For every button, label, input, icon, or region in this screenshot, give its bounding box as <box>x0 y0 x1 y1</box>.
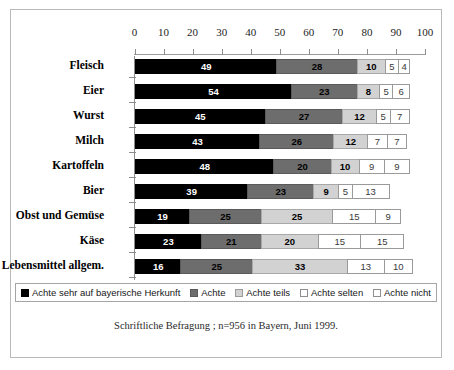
legend-item[interactable]: Achte teils <box>235 287 290 298</box>
legend-item[interactable]: Achte nicht <box>373 287 431 298</box>
x-axis-tick-label: 100 <box>405 27 445 38</box>
bar-row: Obst und Gemüse192525159 <box>11 206 441 231</box>
stacked-bar: 45271257 <box>135 109 410 124</box>
stacked-bar: 1625331310 <box>135 259 413 274</box>
bar-segment: 10 <box>384 259 413 274</box>
bar-segment: 49 <box>135 59 277 74</box>
x-axis-tick <box>251 49 252 55</box>
bar-segment: 26 <box>259 134 335 149</box>
legend-item[interactable]: Achte sehr auf bayerische Herkunft <box>21 287 180 298</box>
x-axis-tick <box>367 49 368 55</box>
legend-label: Achte <box>201 287 225 298</box>
x-axis-tick <box>309 49 310 55</box>
y-axis-tick <box>129 277 136 278</box>
bar-segment: 54 <box>135 84 292 99</box>
bar-segment: 39 <box>135 184 248 199</box>
bar-segment: 15 <box>360 234 404 249</box>
stacked-bar: 39239513 <box>135 184 390 199</box>
x-axis-tick <box>396 49 397 55</box>
bar-segment: 6 <box>392 84 409 99</box>
bar-segment: 10 <box>331 159 360 174</box>
x-axis-tick <box>193 49 194 55</box>
category-label: Lebensmittel allgem. <box>0 259 104 272</box>
bar-row: Käse2321201515 <box>11 231 441 256</box>
bar-segment: 33 <box>252 259 348 274</box>
y-axis-tick <box>129 177 136 178</box>
bar-row: Kartoffeln48201099 <box>11 156 441 181</box>
bar-segment: 8 <box>357 84 380 99</box>
bar-segment: 9 <box>359 159 385 174</box>
legend: Achte sehr auf bayerische HerkunftAchteA… <box>15 283 437 302</box>
y-axis-tick <box>129 202 136 203</box>
bar-segment: 10 <box>357 59 386 74</box>
y-axis-tick <box>129 252 136 253</box>
bar-segment: 20 <box>273 159 331 174</box>
bar-segment: 23 <box>247 184 314 199</box>
bar-segment: 5 <box>379 84 394 99</box>
footnote: Schriftliche Befragung ; n=956 in Bayern… <box>11 320 441 332</box>
category-label: Kartoffeln <box>0 159 104 172</box>
y-axis-tick <box>129 152 136 153</box>
bar-segment: 4 <box>398 59 410 74</box>
x-axis-tick <box>425 49 426 55</box>
bar-segment: 25 <box>189 209 262 224</box>
x-axis: 0102030405060708090100 <box>11 10 441 58</box>
plot-area: Fleisch49281054Eier5423856Wurst45271257M… <box>11 56 441 280</box>
category-label: Obst und Gemüse <box>0 209 104 222</box>
stacked-bar: 43261277 <box>135 134 407 149</box>
legend-label: Achte nicht <box>384 287 431 298</box>
bar-segment: 9 <box>384 159 410 174</box>
legend-swatch-icon <box>373 289 381 297</box>
bar-segment: 25 <box>261 209 334 224</box>
bar-segment: 7 <box>367 134 387 149</box>
category-label: Eier <box>0 84 104 97</box>
bar-segment: 7 <box>390 109 410 124</box>
bar-segment: 25 <box>180 259 253 274</box>
legend-label: Achte teils <box>246 287 290 298</box>
bar-segment: 15 <box>318 234 362 249</box>
bar-row: Milch43261277 <box>11 131 441 156</box>
chart-frame: 0102030405060708090100 Fleisch49281054Ei… <box>10 9 442 358</box>
stacked-bar: 5423856 <box>135 84 410 99</box>
x-axis-tick <box>222 49 223 55</box>
legend-item[interactable]: Achte <box>190 287 225 298</box>
category-label: Wurst <box>0 109 104 122</box>
bar-row: Bier39239513 <box>11 181 441 206</box>
stacked-bar: 2321201515 <box>135 234 404 249</box>
bar-segment: 43 <box>135 134 260 149</box>
y-axis-tick <box>129 127 136 128</box>
x-axis-tick <box>280 49 281 55</box>
category-label: Fleisch <box>0 59 104 72</box>
bar-segment: 13 <box>347 259 385 274</box>
x-axis-tick <box>338 49 339 55</box>
bar-segment: 28 <box>276 59 357 74</box>
bar-row: Wurst45271257 <box>11 106 441 131</box>
bar-segment: 23 <box>135 234 202 249</box>
legend-swatch-icon <box>300 289 308 297</box>
bar-row: Fleisch49281054 <box>11 56 441 81</box>
bar-row: Lebensmittel allgem.1625331310 <box>11 256 441 281</box>
x-axis-tick <box>164 49 165 55</box>
bar-segment: 48 <box>135 159 274 174</box>
stacked-bar: 192525159 <box>135 209 401 224</box>
y-axis-tick <box>129 77 136 78</box>
category-label: Käse <box>0 234 104 247</box>
bar-segment: 20 <box>261 234 319 249</box>
bar-segment: 13 <box>352 184 390 199</box>
bar-segment: 7 <box>387 134 407 149</box>
legend-item[interactable]: Achte selten <box>300 287 363 298</box>
bar-segment: 5 <box>338 184 353 199</box>
bar-segment: 9 <box>313 184 339 199</box>
bar-segment: 45 <box>135 109 266 124</box>
bar-segment: 5 <box>385 59 400 74</box>
x-axis-tick <box>135 49 136 55</box>
legend-label: Achte selten <box>311 287 363 298</box>
legend-swatch-icon <box>21 289 29 297</box>
bar-segment: 12 <box>342 109 377 124</box>
bar-segment: 15 <box>332 209 376 224</box>
category-label: Milch <box>0 134 104 147</box>
stacked-bar: 49281054 <box>135 59 410 74</box>
legend-label: Achte sehr auf bayerische Herkunft <box>32 287 180 298</box>
bar-segment: 12 <box>333 134 368 149</box>
bar-segment: 19 <box>135 209 190 224</box>
